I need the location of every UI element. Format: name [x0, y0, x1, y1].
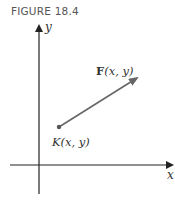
vector-label-args: (x, y) — [104, 64, 133, 78]
y-axis-label: y — [44, 20, 52, 34]
vector-field-diagram: y x F(x, y) K(x, y) — [0, 0, 175, 209]
force-vector — [59, 78, 137, 127]
x-axis-label: x — [167, 168, 174, 182]
point-k-dot — [57, 125, 61, 129]
vector-label: F(x, y) — [96, 64, 133, 78]
point-label: K(x, y) — [51, 135, 90, 149]
